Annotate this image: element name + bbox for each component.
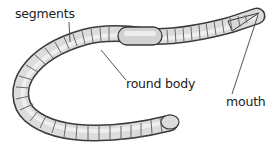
label-mouth: mouth (226, 96, 266, 109)
label-round-body: round body (126, 78, 195, 91)
label-segments: segments (15, 8, 75, 21)
round-body-leader-line (101, 50, 126, 80)
